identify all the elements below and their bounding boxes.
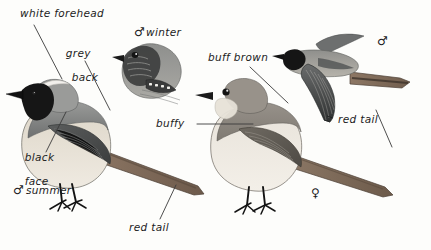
male-winter-symbol-icon: ♂ — [134, 25, 145, 39]
male-summer-symbol-icon: ♂ — [13, 183, 24, 197]
label-buffy: buffy — [156, 118, 185, 130]
label-grey-back-line2: back — [72, 71, 98, 83]
label-buff-brown: buff brown — [208, 52, 268, 64]
male-flight-symbol-icon: ♂ — [377, 34, 388, 48]
illustration-plate: white forehead grey back ♂ winter buff b… — [0, 0, 431, 250]
label-male-summer: summer — [26, 185, 71, 197]
bird-male-winter-head — [112, 38, 202, 108]
label-black-face-line1: black — [25, 151, 55, 163]
bird-female-perched — [193, 75, 408, 220]
female-symbol-icon: ♀ — [311, 186, 320, 200]
label-grey-back: grey back — [51, 35, 98, 95]
label-white-forehead: white forehead — [20, 8, 104, 20]
label-red-tail-left: red tail — [129, 222, 169, 234]
label-red-tail-right: red tail — [338, 114, 378, 126]
label-grey-back-line1: grey — [66, 47, 91, 59]
label-male-winter: winter — [146, 27, 181, 39]
